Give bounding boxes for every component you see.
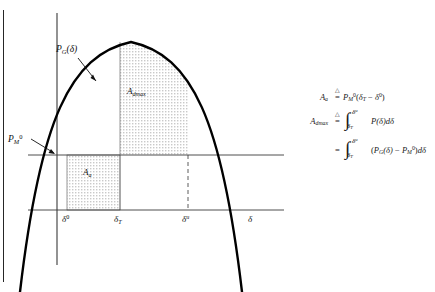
tick-delta0-sup: 0 xyxy=(66,214,69,220)
equations-block: Aa △= PM0(δT − δ0) Admax △= ∫ δu δT P(δ)… xyxy=(286,92,435,169)
area-dmax-label: Admax xyxy=(127,86,146,97)
eq3-operator: = xyxy=(332,145,343,155)
eq3-ddelta: dδ xyxy=(418,145,426,155)
eq3-integral: ∫ δu δT xyxy=(343,140,371,160)
equation-row-1: Aa △= PM0(δT − δ0) xyxy=(286,92,435,102)
eq3-upper-sup: u xyxy=(355,137,357,142)
area-a-label: Aa xyxy=(83,167,92,178)
eq2-integral: ∫ δu δT xyxy=(343,111,371,131)
eq2-upper-sup: u xyxy=(355,108,357,113)
eq2-lower-sub: T xyxy=(350,126,353,131)
eq1-lhs: Aa xyxy=(286,92,332,102)
area-a-sub: a xyxy=(89,172,92,178)
curve-label-arg: (δ) xyxy=(66,44,77,54)
eq2-equals: = xyxy=(335,116,340,126)
eq2-operator: △= xyxy=(332,116,343,126)
axis-label-x: δ xyxy=(248,214,252,224)
eq1-minus: − xyxy=(366,92,375,102)
eq3-integral-upper: δu xyxy=(352,137,358,145)
eq3-integrand: (PG(δ) − PM0)dδ xyxy=(371,145,426,155)
eq3-arg: (δ) xyxy=(383,145,393,155)
eq1-operator: △= xyxy=(332,92,343,102)
tick-deltaT-sub: T xyxy=(118,219,121,225)
tick-label-delta0: δ0 xyxy=(62,214,69,224)
eq3-integral-lower: δT xyxy=(347,151,353,159)
eq3-equals: = xyxy=(335,145,340,155)
eq1-equals: = xyxy=(335,92,340,102)
eq3-lower-sub: T xyxy=(350,155,353,160)
equation-row-3: = ∫ δu δT (PG(δ) − PM0)dδ xyxy=(286,140,435,160)
eq2-integral-upper: δu xyxy=(352,108,358,116)
power-angle-plot xyxy=(0,0,290,292)
eq1-triangle-mark: △ xyxy=(332,87,343,93)
eq1-lhs-sub: a xyxy=(325,96,328,102)
eq2-lhs-sub: dmax xyxy=(316,121,329,127)
tick-label-deltau: δu xyxy=(182,214,189,224)
eq2-arg: (δ) xyxy=(376,116,386,126)
mech-label-sup: 0 xyxy=(19,133,22,140)
eq1-rhs: PM0(δT − δ0) xyxy=(343,92,385,102)
eq2-integral-lower: δT xyxy=(347,122,353,130)
eq2-lhs: Admax xyxy=(286,116,332,126)
curve-label: PG(δ) xyxy=(56,44,77,55)
eq2-triangle-mark: △ xyxy=(332,111,343,117)
equal-area-criterion-figure: PG(δ) PM0 Admax Aa δ0 δT δu δ Aa △= PM0(… xyxy=(0,0,435,292)
eq2-ddelta: dδ xyxy=(386,116,394,126)
eq3-minus: − xyxy=(393,145,402,155)
eq2-integrand: P(δ)dδ xyxy=(371,116,394,126)
equation-row-2: Admax △= ∫ δu δT P(δ)dδ xyxy=(286,111,435,131)
tick-label-deltaT: δT xyxy=(114,214,122,225)
tick-deltau-sup: u xyxy=(186,214,189,220)
eq1-close-paren: ) xyxy=(382,92,385,102)
mechanical-power-label: PM0 xyxy=(8,133,22,145)
shaded-area-accelerating xyxy=(67,155,120,210)
area-dmax-sub: dmax xyxy=(133,91,146,97)
